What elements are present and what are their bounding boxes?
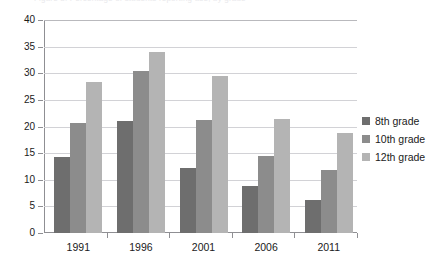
legend-label: 12th grade [375,152,425,163]
bar [212,76,228,233]
bar [305,200,321,233]
bar [133,71,149,233]
bar [337,133,353,233]
bar-chart: Figure 3. Percentage of students reporti… [0,0,437,260]
plot-area: 0510152025303540 19911996200120062011 [44,20,357,233]
legend-swatch-icon [362,117,370,125]
legend-item[interactable]: 8th grade [362,112,437,130]
bar [196,120,212,233]
cut-off-title: Figure 3. Percentage of students reporti… [34,0,334,4]
y-axis-tick [38,100,43,101]
legend-item[interactable]: 12th grade [362,148,437,166]
y-axis-tick [38,20,43,21]
x-axis-tick [107,233,108,238]
legend-label: 10th grade [375,134,425,145]
x-axis-tick-label: 2001 [192,242,215,253]
y-axis-tick-label: 10 [24,175,35,185]
y-axis-tick [38,73,43,74]
bar [70,123,86,233]
y-axis-tick-label: 5 [29,201,35,211]
bar-group: 2001 [179,20,229,233]
y-axis-tick-label: 25 [24,95,35,105]
x-axis-tick-label: 1991 [67,242,90,253]
bar-group: 1991 [53,20,103,233]
y-axis-tick [38,206,43,207]
y-axis-tick-label: 35 [24,42,35,52]
legend-label: 8th grade [375,116,419,127]
y-axis-tick [38,127,43,128]
x-axis-tick-label: 2011 [317,242,340,253]
x-axis-tick [357,233,358,238]
y-axis-tick-label: 15 [24,148,35,158]
x-axis-tick-label: 2006 [254,242,277,253]
legend-swatch-icon [362,135,370,143]
y-axis-tick [38,233,43,234]
x-axis-tick [169,233,170,238]
y-axis-tick [38,180,43,181]
legend-swatch-icon [362,153,370,161]
bar [86,82,102,233]
y-axis-tick [38,47,43,48]
bar [117,121,133,233]
x-axis-tick [294,233,295,238]
y-axis-tick [38,153,43,154]
bar-group: 2006 [241,20,291,233]
bar [321,170,337,233]
x-axis-tick-label: 1996 [129,242,152,253]
y-axis-tick-label: 20 [24,122,35,132]
bar [149,52,165,233]
x-axis-tick [232,233,233,238]
y-axis-tick-label: 40 [24,15,35,25]
bar-group: 1996 [116,20,166,233]
legend: 8th grade10th grade12th grade [362,112,437,166]
bar-group: 2011 [304,20,354,233]
y-axis-tick-label: 0 [29,228,35,238]
bar [242,186,258,233]
y-axis-tick-label: 30 [24,68,35,78]
bar [274,119,290,233]
bar [180,168,196,233]
bar [54,157,70,233]
legend-item[interactable]: 10th grade [362,130,437,148]
bar [258,156,274,233]
